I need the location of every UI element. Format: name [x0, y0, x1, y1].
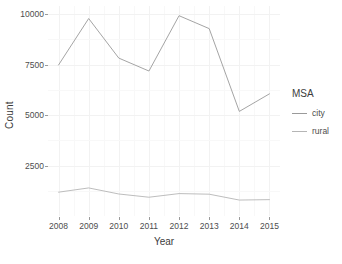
plot-lines: [48, 6, 280, 216]
y-axis-tick-label: 7500: [25, 60, 44, 69]
y-axis-tick-mark: [45, 115, 48, 116]
x-axis-tick-label: 2008: [49, 222, 68, 231]
y-axis-tick-mark: [45, 14, 48, 15]
x-axis-tick-mark: [119, 217, 120, 220]
x-axis-tick-label: 2010: [109, 222, 128, 231]
x-axis-tick-label: 2015: [260, 222, 279, 231]
legend-item-city[interactable]: city: [292, 106, 342, 121]
x-axis-tick-mark: [179, 217, 180, 220]
x-axis-tick-label: 2011: [140, 222, 158, 231]
x-axis-tick-label: 2014: [230, 222, 249, 231]
x-axis-tick-mark: [239, 217, 240, 220]
legend-item-rural[interactable]: rural: [292, 124, 342, 139]
x-axis-title: Year: [48, 236, 280, 247]
series-line-rural: [59, 188, 270, 200]
legend-items: cityrural: [292, 106, 342, 139]
legend: MSA cityrural: [292, 88, 342, 142]
y-axis-tick-labels: 25005000750010000: [14, 0, 44, 230]
plot-panel: [48, 6, 280, 216]
x-axis-tick-mark: [59, 217, 60, 220]
line-chart: Count 25005000750010000 2008200920102011…: [0, 0, 342, 264]
legend-item-label: city: [312, 109, 325, 118]
legend-title: MSA: [292, 88, 342, 99]
x-axis-tick-label: 2012: [170, 222, 189, 231]
x-axis-tick-label: 2009: [79, 222, 98, 231]
y-axis-tick-label: 5000: [25, 111, 44, 120]
x-axis-tick-mark: [89, 217, 90, 220]
x-axis-tick-mark: [209, 217, 210, 220]
x-axis-tick-mark: [269, 217, 270, 220]
series-line-city: [59, 16, 270, 112]
x-axis-tick-label: 2013: [200, 222, 219, 231]
legend-line-icon: [292, 127, 307, 137]
x-axis-tick-mark: [149, 217, 150, 220]
legend-item-label: rural: [312, 127, 329, 136]
y-axis-tick-mark: [45, 166, 48, 167]
y-axis-tick-label: 2500: [25, 161, 44, 170]
y-axis-tick-mark: [45, 65, 48, 66]
legend-line-icon: [292, 109, 307, 119]
y-axis-tick-label: 10000: [20, 10, 44, 19]
